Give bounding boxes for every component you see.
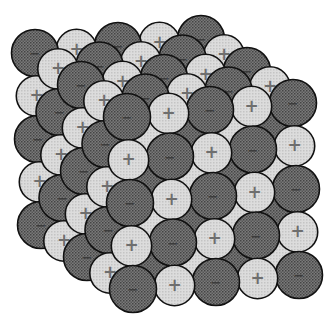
plus-sign-icon: + — [204, 142, 218, 162]
cation-sphere: + — [237, 258, 277, 298]
cation-sphere: + — [277, 212, 317, 252]
plus-sign-icon: + — [244, 96, 258, 116]
anion-sphere: − — [190, 173, 237, 220]
plus-sign-icon: + — [161, 103, 175, 123]
minus-sign-icon: − — [165, 150, 176, 165]
plus-sign-icon: + — [121, 149, 135, 169]
plus-sign-icon: + — [250, 268, 264, 288]
minus-sign-icon: − — [82, 250, 93, 265]
cation-sphere: + — [194, 219, 234, 259]
minus-sign-icon: − — [294, 268, 305, 283]
cation-sphere: + — [274, 126, 314, 166]
crystal-lattice-diagram: −+−+−+−+−+−+−+−+−+−+−+−+−+−+−+−+−+−+−+−+… — [0, 0, 327, 336]
anion-sphere: − — [270, 80, 317, 127]
minus-sign-icon: − — [30, 46, 41, 61]
minus-sign-icon: − — [79, 164, 90, 179]
minus-sign-icon: − — [76, 78, 87, 93]
minus-sign-icon: − — [208, 189, 219, 204]
minus-sign-icon: − — [100, 137, 111, 152]
anion-sphere: − — [107, 180, 154, 227]
anion-sphere: − — [193, 259, 240, 306]
plus-sign-icon: + — [287, 135, 301, 155]
anion-sphere: − — [150, 219, 197, 266]
plus-sign-icon: + — [207, 228, 221, 248]
cation-sphere: + — [108, 140, 148, 180]
cation-sphere: + — [234, 172, 274, 212]
minus-sign-icon: − — [205, 103, 216, 118]
minus-sign-icon: − — [57, 191, 68, 206]
minus-sign-icon: − — [128, 282, 139, 297]
minus-sign-icon: − — [33, 132, 44, 147]
minus-sign-icon: − — [103, 223, 114, 238]
plus-sign-icon: + — [290, 221, 304, 241]
anion-sphere: − — [110, 266, 157, 313]
cation-sphere: + — [111, 226, 151, 266]
cation-sphere: + — [231, 86, 271, 126]
plus-sign-icon: + — [124, 235, 138, 255]
minus-sign-icon: − — [251, 229, 262, 244]
cation-sphere: + — [154, 265, 194, 305]
plus-sign-icon: + — [167, 275, 181, 295]
anion-sphere: − — [276, 252, 323, 299]
cation-sphere: + — [151, 179, 191, 219]
minus-sign-icon: − — [122, 110, 133, 125]
anion-sphere: − — [147, 133, 194, 180]
anion-sphere: − — [233, 212, 280, 259]
anion-sphere: − — [273, 166, 320, 213]
cation-sphere: + — [148, 93, 188, 133]
minus-sign-icon: − — [168, 236, 179, 251]
cation-sphere: + — [191, 133, 231, 173]
minus-sign-icon: − — [248, 143, 259, 158]
minus-sign-icon: − — [288, 96, 299, 111]
minus-sign-icon: − — [54, 105, 65, 120]
ion-group: −+−+−+−+−+−+−+−+−+−+−+−+−+−+−+−+−+−+−+−+… — [12, 16, 323, 313]
anion-sphere: − — [230, 126, 277, 173]
plus-sign-icon: + — [164, 189, 178, 209]
minus-sign-icon: − — [125, 196, 136, 211]
minus-sign-icon: − — [291, 182, 302, 197]
anion-sphere: − — [187, 87, 234, 134]
anion-sphere: − — [104, 94, 151, 141]
minus-sign-icon: − — [36, 218, 47, 233]
plus-sign-icon: + — [247, 182, 261, 202]
minus-sign-icon: − — [211, 275, 222, 290]
